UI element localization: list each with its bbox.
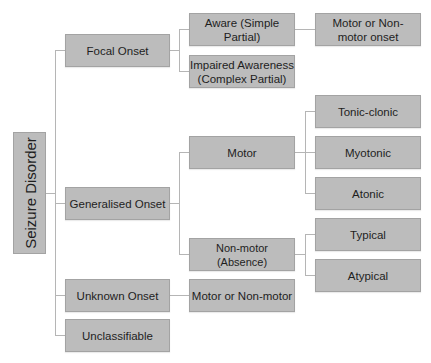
node-unknown-onset: Unknown Onset [65, 279, 170, 312]
connector [305, 111, 306, 193]
connector [305, 275, 315, 276]
connector [55, 50, 56, 336]
node-unclassifiable: Unclassifiable [65, 319, 170, 352]
connector [305, 193, 315, 194]
node-unknown-motor: Motor or Non-motor [189, 279, 295, 312]
node-motor-nonmotor-onset: Motor or Non-motor onset [315, 13, 421, 46]
node-typical: Typical [315, 218, 421, 251]
connector [179, 29, 180, 71]
connector [295, 29, 315, 30]
root-node: Seizure Disorder [13, 132, 46, 254]
connector [179, 152, 189, 153]
node-myotonic: Myotonic [315, 136, 421, 169]
connector [55, 203, 65, 204]
connector [46, 193, 55, 194]
node-atypical: Atypical [315, 259, 421, 292]
connector [179, 254, 189, 255]
connector [305, 111, 315, 112]
node-aware: Aware (Simple Partial) [189, 13, 295, 46]
node-atonic: Atonic [315, 177, 421, 210]
connector [55, 50, 65, 51]
connector [179, 71, 189, 72]
connector [295, 254, 305, 255]
connector [169, 50, 179, 51]
connector [55, 335, 65, 336]
connector [179, 152, 180, 254]
node-motor: Motor [189, 136, 295, 169]
connector [169, 203, 179, 204]
node-tonic-clonic: Tonic-clonic [315, 95, 421, 128]
node-impaired-awareness: Impaired Awareness (Complex Partial) [189, 55, 295, 88]
connector [305, 234, 315, 235]
node-focal-onset: Focal Onset [65, 34, 170, 67]
connector [305, 234, 306, 275]
connector [55, 295, 65, 296]
node-generalised-onset: Generalised Onset [65, 187, 170, 220]
connector [169, 295, 189, 296]
root-label: Seizure Disorder [21, 137, 38, 249]
node-non-motor-absence: Non-motor (Absence) [189, 238, 295, 271]
connector [179, 29, 189, 30]
